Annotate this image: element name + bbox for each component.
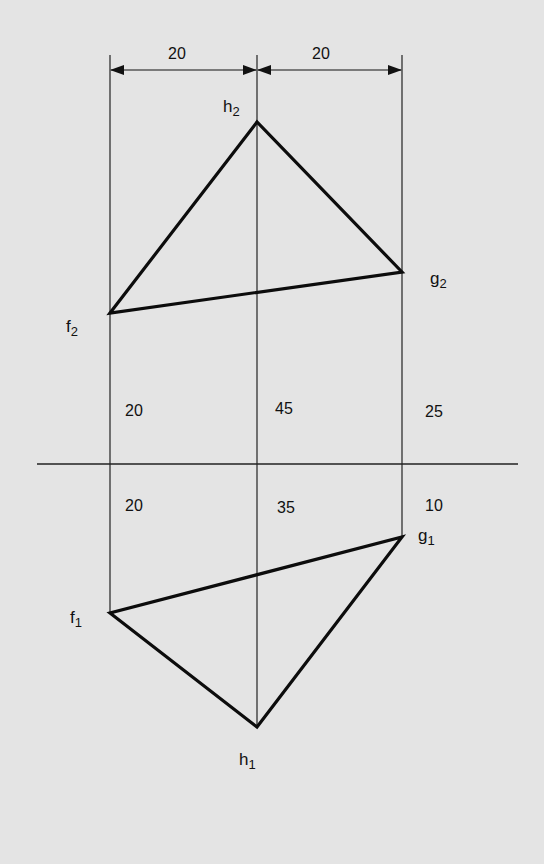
dimension-label-left: 20 — [168, 46, 186, 62]
height-label-g: 25 — [425, 404, 443, 420]
dimension-label-right: 20 — [312, 46, 330, 62]
point-subscript: 2 — [439, 276, 446, 291]
height-label-h: 45 — [275, 401, 293, 417]
point-label-g1: g1 — [418, 527, 435, 544]
point-subscript: 1 — [248, 757, 255, 772]
point-label-h1: h1 — [239, 751, 256, 768]
depth-label-f: 20 — [125, 498, 143, 514]
plan-triangle — [110, 537, 402, 727]
point-subscript: 1 — [427, 533, 434, 548]
point-label-f2: f2 — [66, 318, 78, 335]
projection-drawing — [0, 0, 544, 864]
point-label-g2: g2 — [430, 270, 447, 287]
height-label-f: 20 — [125, 403, 143, 419]
elevation-triangle — [110, 122, 402, 313]
point-subscript: 1 — [75, 615, 82, 630]
point-subscript: 2 — [71, 324, 78, 339]
point-label-h2: h2 — [223, 98, 240, 115]
depth-label-g: 10 — [425, 498, 443, 514]
depth-label-h: 35 — [277, 500, 295, 516]
point-label-f1: f1 — [70, 609, 82, 626]
point-subscript: 2 — [232, 104, 239, 119]
